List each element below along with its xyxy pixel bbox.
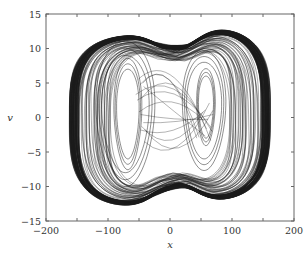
x-tick-label: 200	[285, 225, 303, 236]
x-tick-label: −100	[95, 225, 121, 236]
y-tick-label: 0	[35, 112, 41, 123]
plot-area	[69, 30, 270, 205]
inner-loop	[197, 69, 216, 146]
phase-portrait-chart: −200−1000100200 −15−10−5051015 x v	[0, 0, 308, 260]
x-tick-label: 0	[167, 225, 173, 236]
x-axis-label: x	[167, 239, 173, 250]
y-tick-label: −10	[21, 181, 41, 192]
inner-loop	[114, 58, 142, 169]
y-tick-label: −15	[21, 216, 41, 227]
y-tick-label: 5	[35, 78, 41, 89]
y-tick-label: 15	[29, 9, 41, 20]
y-axis-label: v	[7, 112, 13, 123]
y-tick-labels: −15−10−5051015	[21, 9, 41, 227]
x-tick-label: 100	[223, 225, 241, 236]
x-tick-labels: −200−1000100200	[33, 225, 303, 236]
x-tick-label: −200	[33, 225, 59, 236]
y-tick-label: −5	[27, 147, 41, 158]
y-tick-label: 10	[29, 43, 41, 54]
